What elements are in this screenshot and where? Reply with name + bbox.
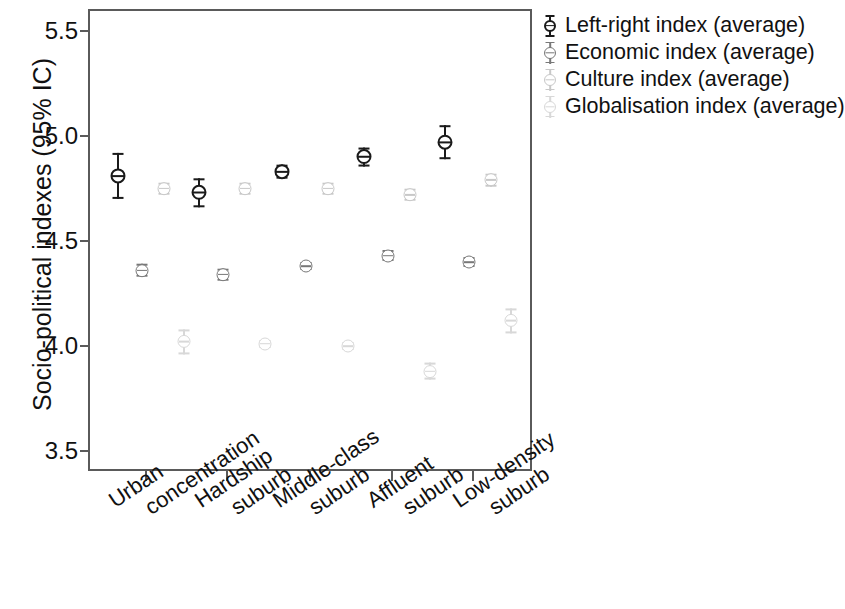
x-axis-tick-label: Low-densitysuburb [448,426,574,535]
legend-item: Culture index (average) [540,66,845,93]
legend-marker-icon [540,41,560,65]
legend-label: Economic index (average) [565,40,815,65]
legend: Left-right index (average)Economic index… [540,12,845,120]
legend-label: Culture index (average) [565,67,790,92]
legend-item: Economic index (average) [540,39,845,66]
legend-item: Left-right index (average) [540,12,845,39]
legend-label: Globalisation index (average) [565,94,845,119]
legend-item: Globalisation index (average) [540,93,845,120]
legend-marker-icon [540,68,560,92]
legend-marker-icon [540,14,560,38]
legend-marker-icon [540,95,560,119]
legend-label: Left-right index (average) [565,13,805,38]
